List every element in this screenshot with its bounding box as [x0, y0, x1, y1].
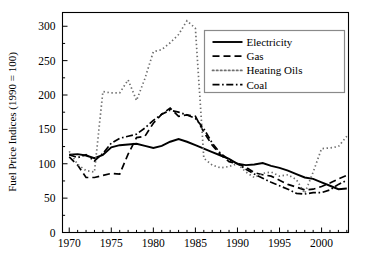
y-tick-label: 250 [38, 55, 56, 67]
legend-label-gas: Gas [247, 50, 264, 62]
legend-label-coal: Coal [247, 79, 268, 91]
x-tick-label: 1975 [100, 237, 123, 249]
x-tick-label: 1970 [58, 237, 81, 249]
legend-label-electricity: Electricity [247, 36, 293, 48]
y-tick-label: 150 [38, 123, 56, 135]
y-axis-ticks: 050100150200250300 [38, 20, 67, 238]
y-tick-label: 0 [50, 227, 56, 239]
fuel-price-indices-chart: 1970197519801985199019952000 05010015020… [0, 0, 365, 264]
y-tick-label: 50 [44, 192, 56, 204]
chart-canvas: 1970197519801985199019952000 05010015020… [0, 0, 365, 264]
y-tick-label: 200 [38, 89, 56, 101]
x-tick-label: 1980 [142, 237, 165, 249]
y-axis-title-group: Fuel Price Indices (1990 = 100) [6, 52, 19, 192]
y-axis-title: Fuel Price Indices (1990 = 100) [6, 52, 19, 192]
x-tick-label: 1990 [226, 237, 249, 249]
x-tick-label: 1995 [268, 237, 291, 249]
chart-legend: ElectricityGasHeating OilsCoal [205, 31, 345, 93]
x-tick-label: 2000 [310, 237, 333, 249]
y-tick-label: 300 [38, 20, 56, 32]
x-tick-label: 1985 [184, 237, 207, 249]
y-tick-label: 100 [38, 158, 56, 170]
x-axis-ticks: 1970197519801985199019952000 [58, 228, 347, 250]
series-line-coal [69, 110, 347, 194]
series-line-electricity [69, 139, 347, 189]
legend-label-heating-oils: Heating Oils [247, 64, 303, 76]
